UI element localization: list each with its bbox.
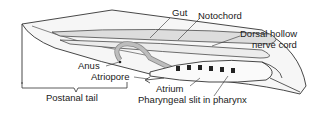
- label-atrium: Atrium: [156, 84, 183, 94]
- tail-bracket: [22, 82, 127, 92]
- anus-dot: [119, 61, 122, 64]
- label-anus: Anus: [78, 61, 100, 71]
- label-nerve-cord: nerve cord: [252, 40, 297, 50]
- label-postanal-tail: Postanal tail: [46, 93, 98, 103]
- label-dorsal-hollow: Dorsal hollow: [240, 29, 297, 39]
- label-pharyngeal-slit: Pharyngeal slit in pharynx: [138, 95, 247, 105]
- label-gut: Gut: [172, 8, 187, 18]
- label-atriopore: Atriopore: [91, 72, 130, 82]
- label-notochord: Notochord: [198, 11, 242, 21]
